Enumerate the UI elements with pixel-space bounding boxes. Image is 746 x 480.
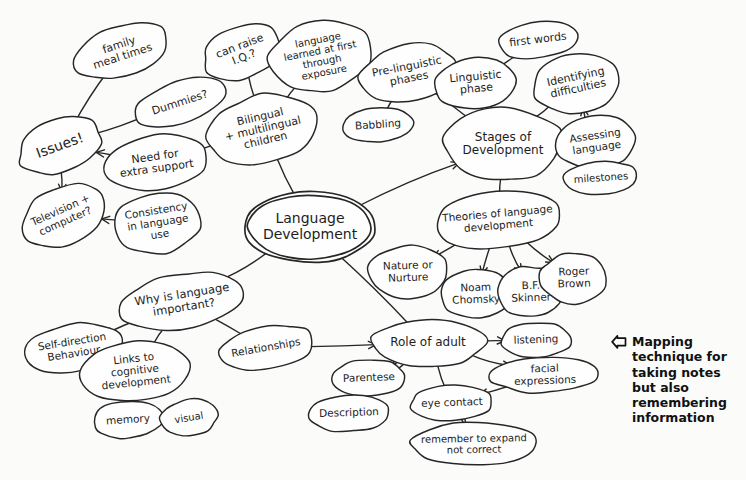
node-relationships[interactable]: Relationships bbox=[220, 324, 313, 373]
node-label: Linguistic phase bbox=[446, 68, 506, 98]
node-label: eye contact bbox=[418, 396, 486, 410]
mindmap-canvas: family meal timesDummies?Issues!Televisi… bbox=[0, 0, 746, 480]
node-label: Role of adult bbox=[387, 336, 469, 349]
node-linguistic-phase[interactable]: Linguistic phase bbox=[438, 59, 513, 107]
node-label: Roger Brown bbox=[554, 266, 594, 291]
node-identifying-difficulties[interactable]: Identifying difficulties bbox=[533, 50, 622, 116]
node-eye-contact[interactable]: eye contact bbox=[416, 389, 489, 417]
edge-relationships-to-role-of-adult bbox=[310, 345, 376, 347]
annotation-text: Mapping technique for taking notes but a… bbox=[632, 334, 727, 426]
node-label: Noam Chomsky bbox=[449, 281, 504, 306]
node-label: facial expressions bbox=[496, 362, 595, 389]
node-label: Stages of Development bbox=[460, 131, 547, 158]
node-why-is-language-important[interactable]: Why is language important? bbox=[121, 269, 245, 333]
node-issues[interactable]: Issues! bbox=[17, 112, 103, 179]
node-bilingual-multilingual[interactable]: Bilingual + multilingual children bbox=[207, 89, 319, 168]
arrow-left-icon bbox=[611, 335, 627, 349]
node-parentese[interactable]: Parentese bbox=[337, 363, 402, 393]
node-links-to-cognitive[interactable]: Links to cognitive development bbox=[83, 340, 188, 402]
node-label: Language Development bbox=[260, 211, 360, 242]
node-remember-to-expand[interactable]: remember to expand not correct bbox=[415, 426, 534, 462]
node-label: remember to expand not correct bbox=[418, 432, 530, 456]
node-milestones[interactable]: milestones bbox=[567, 164, 635, 193]
node-facial-expressions[interactable]: facial expressions bbox=[496, 360, 595, 389]
node-visual[interactable]: visual bbox=[163, 400, 215, 435]
node-description[interactable]: Description bbox=[313, 398, 386, 428]
node-first-words[interactable]: first words bbox=[501, 22, 576, 59]
node-theories-of-language[interactable]: Theories of language development bbox=[436, 192, 560, 248]
node-stages-of-development[interactable]: Stages of Development bbox=[448, 113, 558, 175]
node-label: Parentese bbox=[340, 371, 398, 385]
node-label: listening bbox=[510, 333, 561, 347]
node-label: Description bbox=[316, 406, 382, 420]
node-roger-brown[interactable]: Roger Brown bbox=[544, 256, 603, 300]
node-nature-or-nurture[interactable]: Nature or Nurture bbox=[372, 250, 443, 294]
annotation-callout: Mapping technique for taking notes but a… bbox=[611, 334, 727, 426]
node-listening[interactable]: listening bbox=[505, 326, 568, 354]
node-consistency-language-use[interactable]: Consistency in language use bbox=[114, 191, 201, 255]
node-central[interactable]: Language Development bbox=[249, 196, 371, 258]
node-need-extra-support[interactable]: Need for extra support bbox=[107, 134, 205, 192]
node-label: Nature or Nurture bbox=[380, 259, 436, 284]
node-memory[interactable]: memory bbox=[96, 404, 160, 436]
node-family-meal-times[interactable]: family meal times bbox=[74, 18, 169, 85]
node-babbling[interactable]: Babbling bbox=[346, 110, 410, 140]
node-television-computer[interactable]: Television + computer? bbox=[18, 178, 109, 254]
